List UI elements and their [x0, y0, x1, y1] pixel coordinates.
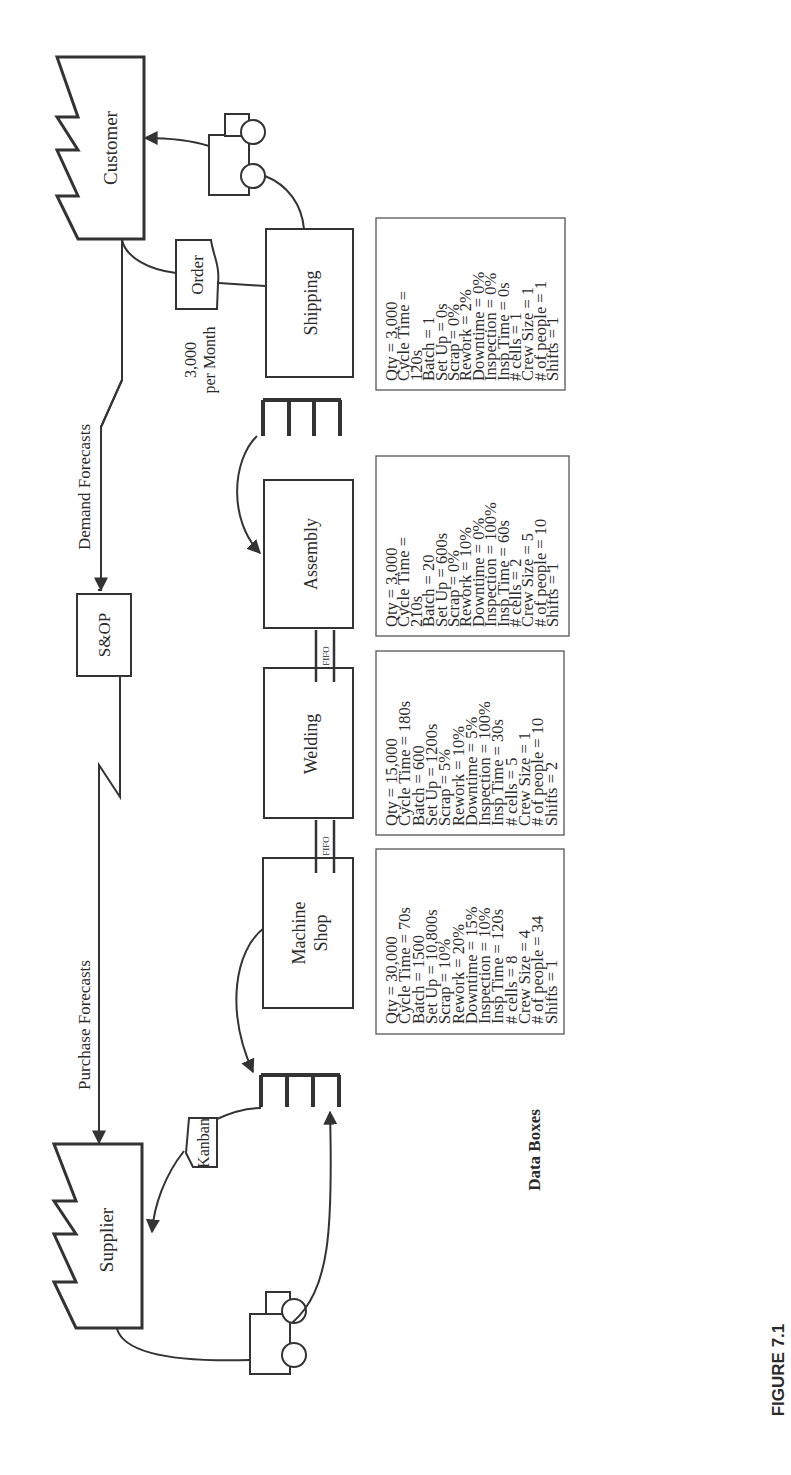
supplier-to-truck-line	[117, 1329, 250, 1360]
data-box-welding: Qty = 15,000Cycle Time = 180sBatch = 600…	[376, 651, 564, 835]
shipping-label: Shipping	[301, 270, 321, 335]
demand-forecasts-label: Demand Forecasts	[75, 424, 94, 550]
order-label: Order	[188, 255, 207, 295]
customer-truck-icon	[209, 114, 265, 195]
machine-shop-label-line1: Machine	[289, 902, 309, 965]
customer-order-line	[122, 240, 176, 273]
fifo-1-label: FIFO	[321, 836, 331, 856]
demand-period-label: per Month	[201, 326, 219, 393]
data-box-assembly: Qty = 3,000Cycle Time =210sBatch = 20Set…	[376, 456, 569, 636]
data-box-line: Shifts = 1	[542, 960, 561, 1024]
data-box-line: Shifts = 2	[542, 762, 561, 826]
machine-shop-pull-arrow	[236, 928, 264, 1072]
order-to-shipping-line	[219, 283, 265, 286]
finished-goods-supermarket-icon	[263, 400, 341, 436]
kanban-to-supplier-arrow	[152, 1151, 184, 1232]
purchase-forecast-electronic-flow	[99, 677, 120, 935]
fifo-2-label: FIFO	[321, 646, 331, 666]
assembly-pull-arrow	[237, 436, 260, 553]
process-box-assembly: Assembly	[264, 480, 353, 628]
process-box-machine-shop: Machine Shop	[263, 858, 353, 1008]
kanban-to-inventory-line	[217, 1108, 261, 1119]
process-box-shipping: Shipping	[266, 229, 353, 377]
customer-label: Customer	[100, 110, 121, 185]
sop-box: S&OP	[77, 594, 131, 676]
data-box-machine-shop: Qty = 30,000Cycle Time = 70sBatch = 1500…	[376, 849, 564, 1034]
supplier-label: Supplier	[96, 1207, 117, 1272]
supplier-factory-icon: Supplier	[54, 1144, 142, 1328]
purchase-forecasts-label: Purchase Forecasts	[75, 960, 94, 1090]
data-box-shipping: Qty = 3,000Cycle Time =120sBatch = 1Set …	[376, 218, 565, 390]
data-boxes-label: Data Boxes	[525, 1109, 544, 1191]
welding-label: Welding	[301, 714, 321, 775]
data-box-line: Shifts = 1	[543, 563, 562, 627]
value-stream-map: Customer Order Shipping 3,000 per Month …	[0, 0, 791, 1475]
process-box-welding: Welding	[264, 668, 353, 818]
sop-label: S&OP	[95, 613, 114, 657]
kanban-signal-icon: Kanban	[186, 1118, 217, 1168]
data-box-line: Shifts = 1	[543, 317, 562, 381]
truck-to-raw-inventory-arrow	[292, 1112, 331, 1323]
shipment-to-customer-arrow	[145, 138, 209, 146]
kanban-label: Kanban	[195, 1118, 212, 1168]
raw-material-supermarket-icon	[261, 1075, 340, 1107]
demand-zigzag	[101, 380, 122, 427]
customer-factory-icon: Customer	[57, 57, 144, 239]
figure-caption: FIGURE 7.1	[769, 1324, 788, 1417]
machine-shop-label-line2: Shop	[311, 914, 331, 951]
order-document-icon: Order	[176, 240, 218, 309]
assembly-label: Assembly	[301, 518, 321, 590]
demand-qty-label: 3,000	[182, 342, 199, 378]
supplier-truck-icon	[250, 1292, 306, 1374]
shipping-to-truck-line	[265, 176, 304, 229]
